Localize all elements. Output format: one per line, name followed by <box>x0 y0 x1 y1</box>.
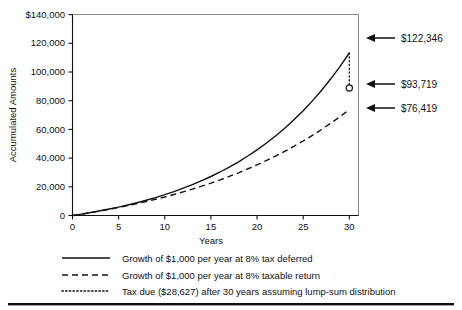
annotation-arrow-middle <box>366 80 395 88</box>
legend-label-tax-deferred: Growth of $1,000 per year at 8% tax defe… <box>122 253 313 264</box>
y-tick-label-140000: $140,000 <box>25 9 65 20</box>
x-tick-label-30: 30 <box>344 221 355 232</box>
y-tick-label-20000: 20,000 <box>36 181 65 192</box>
annotation-arrow-top <box>366 34 395 42</box>
chart-figure: 0 20,000 40,000 60,000 80,000 100,000 12… <box>0 0 462 310</box>
x-axis-title: Years <box>199 235 223 246</box>
y-axis-ticks <box>69 15 73 216</box>
x-tick-label-25: 25 <box>298 221 309 232</box>
annotation-label-middle: $93,719 <box>401 79 438 90</box>
marker-net-after-tax <box>346 85 352 91</box>
y-tick-label-60000: 60,000 <box>36 124 65 135</box>
y-tick-label-100000: 100,000 <box>31 66 65 77</box>
footer-divider <box>8 303 454 305</box>
x-tick-label-20: 20 <box>252 221 263 232</box>
annotation-label-top: $122,346 <box>401 33 443 44</box>
y-axis-title: Accumulated Amounts <box>7 67 18 162</box>
annotation-label-bottom: $76,419 <box>401 103 438 114</box>
y-tick-label-80000: 80,000 <box>36 95 65 106</box>
series-taxable-return-line <box>73 110 350 216</box>
series-tax-deferred-line <box>73 53 350 216</box>
x-tick-label-0: 0 <box>70 221 75 232</box>
chart-svg: 0 20,000 40,000 60,000 80,000 100,000 12… <box>0 0 462 310</box>
legend-label-tax-due: Tax due ($28,627) after 30 years assumin… <box>122 286 396 297</box>
x-tick-label-5: 5 <box>116 221 121 232</box>
x-axis-ticks <box>73 216 350 220</box>
x-tick-label-10: 10 <box>160 221 171 232</box>
y-tick-label-0: 0 <box>60 210 65 221</box>
legend-label-taxable-return: Growth of $1,000 per year at 8% taxable … <box>122 270 320 281</box>
x-tick-label-15: 15 <box>206 221 217 232</box>
plot-area-frame <box>73 15 359 216</box>
chart-legend: Growth of $1,000 per year at 8% tax defe… <box>62 253 396 297</box>
y-tick-label-120000: 120,000 <box>31 37 65 48</box>
y-tick-label-40000: 40,000 <box>36 152 65 163</box>
annotation-arrow-bottom <box>366 104 395 112</box>
